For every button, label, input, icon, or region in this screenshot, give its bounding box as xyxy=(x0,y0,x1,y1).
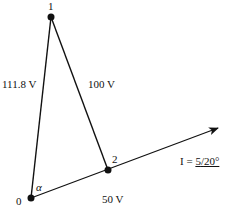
node-2-label: 2 xyxy=(112,153,118,165)
current-prefix: I = xyxy=(180,155,195,167)
edge-0-1 xyxy=(31,17,51,198)
node-0-dot xyxy=(28,195,35,202)
node-0-label: 0 xyxy=(16,195,22,207)
angle-alpha-label: α xyxy=(36,181,42,193)
current-phasor-label: I = 5/20° xyxy=(180,155,219,167)
edge-1-2 xyxy=(51,17,108,170)
node-2-dot xyxy=(105,167,112,174)
node-1-dot xyxy=(48,14,55,21)
phasor-diagram-canvas xyxy=(0,0,233,207)
current-angle: 20° xyxy=(204,155,219,167)
edge-1-2-voltage-label: 100 V xyxy=(88,78,115,90)
node-1-label: 1 xyxy=(48,0,54,12)
edge-0-2-voltage-label: 50 V xyxy=(102,193,124,205)
edge-0-1-voltage-label: 111.8 V xyxy=(2,78,36,90)
